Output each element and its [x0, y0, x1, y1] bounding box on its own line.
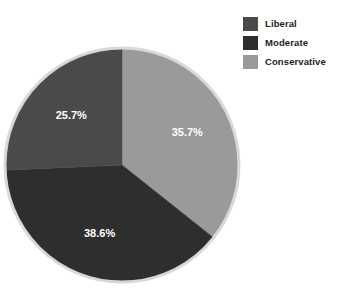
chart-legend: Liberal Moderate Conservative	[243, 14, 337, 71]
legend-item-moderate[interactable]: Moderate	[243, 33, 337, 52]
pie-slice-label-conservative: 35.7%	[172, 126, 203, 138]
chart-root: 35.7%38.6%25.7% Liberal Moderate Conserv…	[0, 0, 337, 304]
legend-label-liberal: Liberal	[265, 19, 297, 29]
legend-swatch-icon-moderate	[243, 36, 258, 50]
legend-swatch-icon-conservative	[243, 55, 258, 69]
legend-swatch-icon-liberal	[243, 17, 258, 31]
legend-item-liberal[interactable]: Liberal	[243, 14, 337, 33]
pie-slice-label-moderate: 38.6%	[84, 227, 115, 239]
legend-label-conservative: Conservative	[265, 57, 326, 67]
legend-label-moderate: Moderate	[265, 38, 308, 48]
legend-item-conservative[interactable]: Conservative	[243, 52, 337, 71]
pie-slice-label-liberal: 25.7%	[56, 109, 87, 121]
